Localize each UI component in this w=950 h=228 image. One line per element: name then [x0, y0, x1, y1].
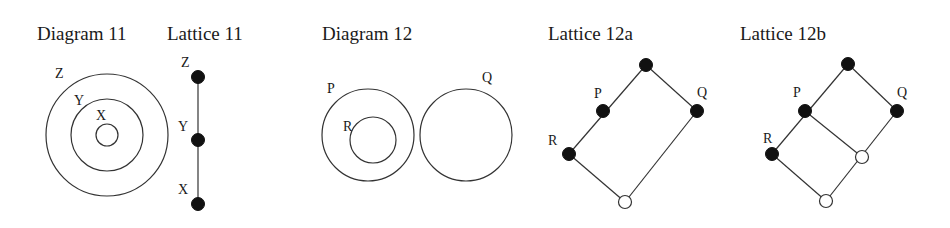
- diagram-12: P R Q: [322, 70, 512, 181]
- edge-r-bottom: [772, 154, 826, 201]
- label-p: P: [793, 85, 801, 100]
- node-top: [842, 58, 855, 71]
- node-x: [192, 198, 205, 211]
- label-q: Q: [482, 70, 492, 85]
- circle-r: [350, 117, 396, 163]
- diagram-11: Z Y X: [46, 66, 168, 196]
- node-y: [192, 134, 205, 147]
- node-top: [640, 59, 653, 72]
- label-p: P: [327, 81, 335, 96]
- edge-p-middle: [805, 111, 862, 157]
- label-q: Q: [697, 85, 707, 100]
- node-z: [192, 71, 205, 84]
- edge-r-bottom: [569, 154, 625, 202]
- node-bottom: [820, 195, 833, 208]
- label-r: R: [763, 131, 773, 146]
- title-diagram-11: Diagram 11: [37, 23, 127, 44]
- node-r: [766, 148, 779, 161]
- lattice-11: Z Y X: [178, 55, 205, 211]
- label-r: R: [548, 133, 558, 148]
- node-p: [799, 105, 812, 118]
- circle-q: [420, 89, 512, 181]
- lattice-12a: P Q R: [548, 59, 707, 209]
- node-r: [563, 148, 576, 161]
- label-z: Z: [55, 66, 64, 81]
- figure-canvas: Diagram 11 Lattice 11 Diagram 12 Lattice…: [0, 0, 950, 228]
- label-x: X: [96, 108, 106, 123]
- title-lattice-12b: Lattice 12b: [740, 23, 826, 44]
- label-q: Q: [897, 85, 907, 100]
- label-z: Z: [181, 55, 190, 70]
- node-q: [691, 105, 704, 118]
- edge-top-q: [646, 65, 697, 111]
- node-bottom: [619, 196, 632, 209]
- circle-y: [71, 99, 143, 171]
- label-y: Y: [74, 93, 84, 108]
- circle-p: [322, 89, 414, 181]
- title-diagram-12: Diagram 12: [322, 23, 412, 44]
- label-x: X: [178, 182, 188, 197]
- edge-top-q: [848, 64, 897, 111]
- label-p: P: [594, 86, 602, 101]
- label-r: R: [343, 119, 353, 134]
- circle-x: [96, 124, 118, 146]
- label-y: Y: [178, 119, 188, 134]
- title-lattice-11: Lattice 11: [167, 23, 243, 44]
- circle-z: [46, 74, 168, 196]
- edge-q-bottom: [625, 111, 697, 202]
- node-q: [891, 105, 904, 118]
- node-middle: [856, 151, 869, 164]
- lattice-12b: P Q R: [763, 58, 907, 208]
- title-lattice-12a: Lattice 12a: [548, 23, 633, 44]
- node-p: [597, 105, 610, 118]
